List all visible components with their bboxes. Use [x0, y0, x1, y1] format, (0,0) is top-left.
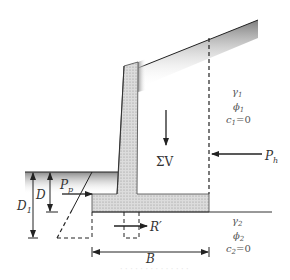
ph-label: Ph: [264, 149, 278, 165]
phi2: ϕ2: [233, 230, 245, 243]
faint-caption: · · · · · · · · · · · · · ·: [120, 265, 189, 274]
b-label: B: [145, 252, 155, 266]
backfill-slope: [138, 20, 258, 88]
gamma1: γ1: [232, 86, 242, 99]
shear-key: [124, 212, 139, 238]
c2: c2=0: [226, 243, 251, 256]
foundation-soil-properties: γ2 ϕ2 c2=0: [226, 215, 251, 256]
slope-shading: [138, 20, 258, 88]
backfill-soil-properties: γ1 ϕ1 c1=0: [226, 86, 251, 127]
stem-shading: [138, 59, 146, 92]
sum-v-label: ΣV: [156, 155, 173, 169]
r-prime-label: R′: [149, 220, 162, 234]
d-label: D: [35, 188, 46, 202]
phi1: ϕ1: [233, 101, 244, 114]
d1-label: D1: [16, 199, 32, 215]
c1: c1=0: [226, 114, 251, 127]
retaining-wall-diagram: ΣV Ph Pp R′ D D1 B γ1 ϕ1 c1=0 γ2 ϕ2 c2=0…: [0, 0, 290, 280]
gamma2: γ2: [232, 215, 243, 228]
